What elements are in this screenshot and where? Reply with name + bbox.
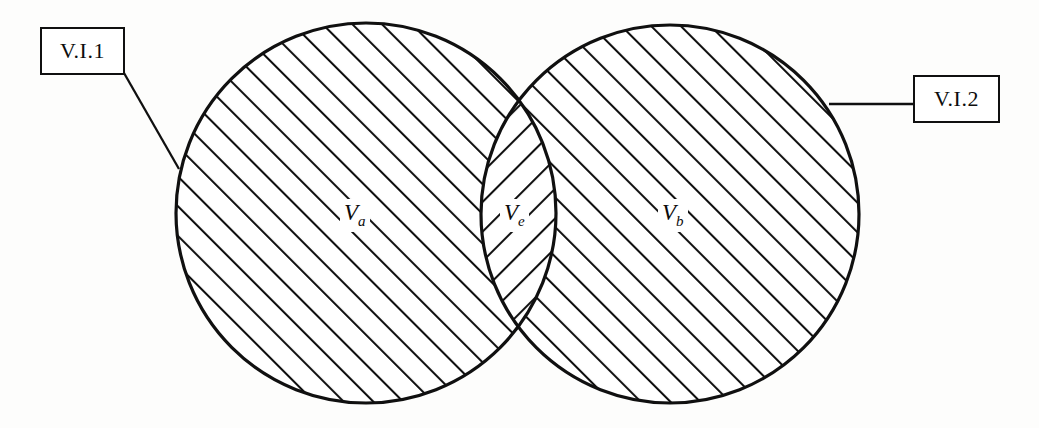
region-label-va: Va xyxy=(340,199,370,232)
region-subscript-vb: b xyxy=(676,213,684,229)
region-symbol-va: V xyxy=(344,200,358,225)
callout-label-vi1: V.I.1 xyxy=(60,40,105,62)
region-subscript-va: a xyxy=(358,213,366,229)
region-symbol-vb: V xyxy=(662,200,676,225)
callout-label-vi2: V.I.2 xyxy=(934,88,979,110)
region-symbol-ve: V xyxy=(504,200,518,225)
leader-line-vi1 xyxy=(124,73,179,169)
region-label-ve: Ve xyxy=(500,199,529,232)
region-subscript-ve: e xyxy=(518,213,525,229)
callout-box-vi1: V.I.1 xyxy=(40,27,125,75)
venn-diagram-figure: V.I.1 V.I.2 Va Ve Vb xyxy=(0,0,1039,428)
region-label-vb: Vb xyxy=(658,199,688,232)
callout-box-vi2: V.I.2 xyxy=(913,75,1000,123)
